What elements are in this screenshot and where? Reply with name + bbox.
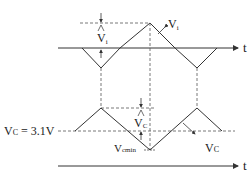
vc-curve-pointer — [183, 123, 195, 134]
waveform-diagram: t Vi Vi VC = 3.1V VC Vcmin VC t — [0, 0, 252, 175]
vcmin-label: Vcmin — [114, 142, 136, 154]
bottom-axis-t-label: t — [243, 158, 247, 173]
vi-waveform — [82, 23, 217, 68]
vi-curve-pointer — [158, 27, 165, 34]
vi-curve-label: Vi — [168, 17, 179, 32]
top-axis-t-label: t — [243, 40, 247, 55]
vc-delta-label: VC — [134, 116, 148, 130]
vc-curve-label: VC — [205, 141, 219, 155]
vc-level-label: VC = 3.1V — [4, 124, 55, 138]
vc-waveform — [75, 108, 222, 150]
vi-amplitude-label: Vi — [97, 31, 108, 46]
